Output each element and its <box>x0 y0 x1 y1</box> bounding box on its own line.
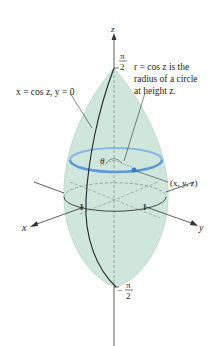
solid-body <box>64 68 168 287</box>
y-axis-label: y <box>198 222 204 233</box>
y-tick-label: 1 <box>142 202 147 212</box>
z-top-tick-numerator: π <box>120 51 125 61</box>
z-bottom-tick-denominator: 2 <box>126 291 131 301</box>
x-axis-outer <box>34 182 64 193</box>
radius-label-line-1: r = cos z is the <box>134 62 189 72</box>
radius-label-line-3: at height z. <box>134 86 176 96</box>
angle-label: θ <box>100 156 105 166</box>
x-tick-label: 1 <box>79 202 84 212</box>
x-axis-arrow-icon <box>30 221 38 227</box>
curve-equation-label: x = cos z, y = 0 <box>16 87 75 97</box>
solid-of-revolution-diagram: θ z x y π 2 − π 2 1 1 x = cos z, y = 0 r… <box>0 0 219 346</box>
x-axis-label: x <box>21 222 27 233</box>
point-label: (x, y, z) <box>170 178 197 188</box>
z-bottom-tick-numerator: π <box>126 280 131 290</box>
z-axis-arrow-icon <box>112 33 117 40</box>
diagram-canvas: θ z x y π 2 − π 2 1 1 x = cos z, y = 0 r… <box>0 0 219 346</box>
z-axis-label: z <box>110 24 115 34</box>
y-axis-arrow-icon <box>190 220 198 226</box>
z-bottom-tick-sign: − <box>117 285 122 295</box>
radius-label-line-2: radius of a circle <box>134 74 198 84</box>
point-marker <box>132 168 137 173</box>
z-top-tick-denominator: 2 <box>120 62 125 72</box>
